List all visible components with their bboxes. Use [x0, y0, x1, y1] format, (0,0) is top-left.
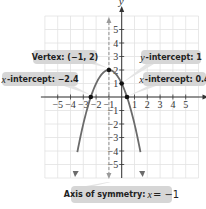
y-var: y [140, 52, 144, 63]
parabola-graph: xy−5−4−3−2−112345−5−4−3−2−112345 [0, 0, 206, 209]
svg-text:4: 4 [170, 99, 175, 110]
vertex-label: Vertex: (−1, 2) [32, 53, 99, 62]
axis-symmetry-value: = −1 [153, 189, 179, 200]
y-intercept-label: -intercept: 1 [146, 53, 202, 62]
svg-text:−5: −5 [52, 99, 63, 110]
svg-text:y: y [118, 0, 124, 7]
x-intercept-right-callout: x-intercept: 0.4 [143, 72, 206, 86]
svg-text:3: 3 [113, 51, 118, 62]
x-var: x [147, 189, 151, 200]
x-intercept-right-label: -intercept: 0.4 [145, 75, 206, 84]
svg-text:3: 3 [158, 99, 163, 110]
svg-text:−2: −2 [91, 99, 102, 110]
svg-text:5: 5 [113, 24, 118, 35]
svg-text:4: 4 [113, 38, 118, 49]
svg-text:5: 5 [183, 99, 188, 110]
svg-text:1: 1 [113, 78, 118, 89]
x-var: x [2, 74, 6, 85]
svg-text:2: 2 [145, 99, 150, 110]
vertex-callout: Vertex: (−1, 2) [33, 50, 97, 64]
axis-of-symmetry-callout: Axis of symmetry: x = −1 [71, 186, 172, 203]
x-intercept-left-label: -intercept: −2.4 [7, 75, 79, 84]
x-var: x [139, 74, 143, 85]
y-intercept-callout: y-intercept: 1 [141, 50, 201, 64]
svg-text:1: 1 [132, 99, 137, 110]
axis-symmetry-label: Axis of symmetry: [64, 190, 146, 199]
x-intercept-left-callout: x-intercept: −2.4 [2, 72, 78, 86]
svg-text:−4: −4 [65, 99, 76, 110]
